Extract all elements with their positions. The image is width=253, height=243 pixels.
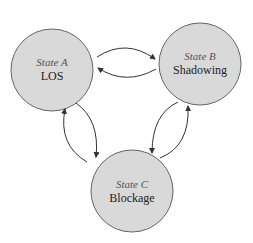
edge-c-to-a (64, 109, 87, 162)
node-b-state: State B (155, 50, 245, 63)
diagram-graphics (0, 0, 253, 243)
edge-b-to-c (152, 102, 178, 153)
state-diagram: State A LOS State B Shadowing State C Bl… (0, 0, 253, 243)
node-a-state: State A (7, 56, 97, 69)
edge-b-to-a (98, 68, 156, 77)
node-a-label: State A LOS (7, 56, 97, 84)
node-c-name: Blockage (87, 191, 177, 206)
node-b-name: Shadowing (155, 63, 245, 78)
node-c-label: State C Blockage (87, 178, 177, 206)
node-a-name: LOS (7, 69, 97, 84)
node-b-label: State B Shadowing (155, 50, 245, 78)
edge-a-to-c (76, 103, 97, 157)
edge-a-to-b (97, 48, 155, 59)
node-c-state: State C (87, 178, 177, 191)
edge-c-to-b (160, 106, 188, 158)
